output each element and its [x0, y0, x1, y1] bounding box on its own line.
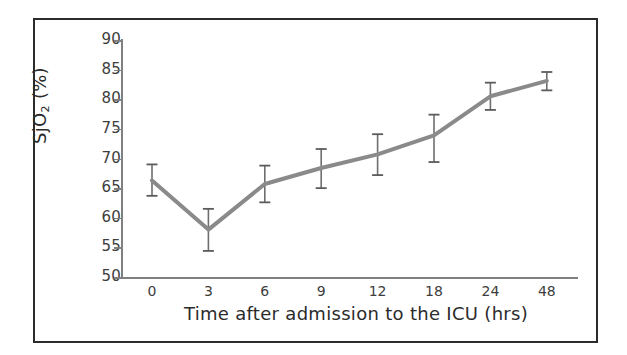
- figure-root: SjO2 (%) 908580757065605550 036912182448…: [0, 0, 627, 355]
- series-line-sjo2: [152, 81, 547, 230]
- plot-area: SjO2 (%) 908580757065605550 036912182448…: [0, 0, 627, 355]
- x-axis-title: Time after admission to the ICU (hrs): [121, 303, 591, 324]
- series-svg: [0, 0, 627, 355]
